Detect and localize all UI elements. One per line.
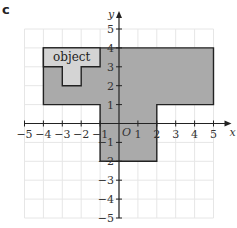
coordinate-diagram: c −5−4−3−2−11234554321−1−2−3−4−5xyO obje… (0, 0, 236, 228)
origin-label: O (122, 126, 131, 139)
y-axis-arrow-icon (116, 11, 122, 18)
x-tick-label: 2 (153, 128, 160, 141)
y-tick-label: 2 (107, 80, 114, 93)
x-tick-label: 4 (191, 128, 198, 141)
part-label: c (2, 2, 10, 17)
y-tick-label: 4 (107, 42, 114, 55)
x-tick-label: −3 (54, 128, 70, 141)
y-axis-label: y (107, 8, 115, 21)
x-axis-label: x (230, 126, 237, 139)
y-tick-label: −4 (98, 193, 114, 206)
x-tick-label: −5 (16, 128, 32, 141)
x-tick-label: 5 (210, 128, 217, 141)
y-tick-label: 5 (107, 23, 114, 36)
x-tick-label: 1 (134, 128, 141, 141)
y-tick-label: −2 (98, 155, 114, 168)
x-tick-label: −4 (35, 128, 51, 141)
coordinate-plane: −5−4−3−2−11234554321−1−2−3−4−5xyO object (0, 0, 236, 228)
y-tick-label: −1 (98, 136, 114, 149)
x-tick-label: −2 (73, 128, 89, 141)
object-label: object (53, 50, 90, 64)
y-tick-label: 1 (107, 99, 114, 112)
x-tick-label: 3 (172, 128, 179, 141)
y-tick-label: −5 (98, 212, 114, 225)
y-tick-label: 3 (107, 61, 114, 74)
y-tick-label: −3 (98, 174, 114, 187)
